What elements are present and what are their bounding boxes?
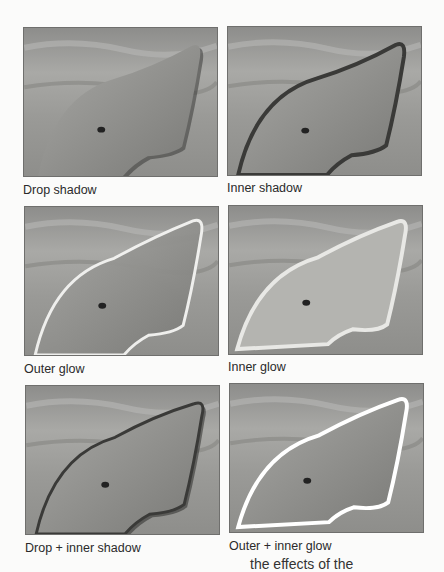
- caption: Drop + inner shadow: [25, 541, 141, 555]
- dolphin-image: [26, 386, 219, 534]
- clipped-body-text: the effects of the: [250, 556, 353, 572]
- photo-outer-glow: [24, 206, 219, 356]
- dolphin-image: [24, 28, 217, 176]
- photo-drop-inner-shadow: [25, 385, 220, 535]
- photo-outer-inner-glow: [229, 383, 424, 533]
- caption: Outer glow: [24, 362, 84, 376]
- dolphin-image: [228, 27, 421, 175]
- photo-inner-shadow: [227, 26, 422, 176]
- caption: Inner shadow: [227, 181, 302, 195]
- dolphin-image: [230, 384, 423, 532]
- caption: Outer + inner glow: [229, 539, 331, 553]
- photo-drop-shadow: [23, 27, 218, 177]
- caption: Drop shadow: [23, 183, 97, 197]
- dolphin-image: [229, 206, 422, 354]
- dolphin-image: [25, 207, 218, 355]
- photo-inner-glow: [228, 205, 423, 355]
- caption: Inner glow: [228, 360, 286, 374]
